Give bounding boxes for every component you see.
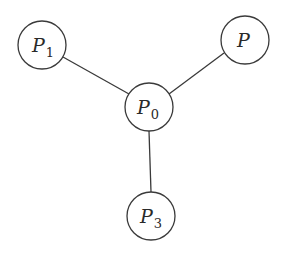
svg-text:P: P: [236, 29, 251, 51]
node-p0-subscript: 0: [151, 107, 159, 122]
node-p0: P0: [125, 83, 173, 131]
node-p3-label: P: [139, 205, 154, 227]
node-p-label: P: [236, 29, 251, 51]
node-p0-label: P: [136, 96, 151, 118]
star-diagram: P1 P P0 P3: [0, 0, 284, 256]
edge-p0-p3: [149, 131, 151, 192]
node-p3-subscript: 3: [154, 216, 162, 231]
edge-p0-p1: [63, 57, 129, 94]
node-p: P: [221, 16, 269, 64]
node-p1-label: P: [31, 34, 46, 56]
node-p1: P1: [18, 21, 66, 69]
node-p1-subscript: 1: [46, 45, 54, 60]
node-p3: P3: [127, 192, 175, 240]
edge-p0-p: [169, 53, 224, 94]
